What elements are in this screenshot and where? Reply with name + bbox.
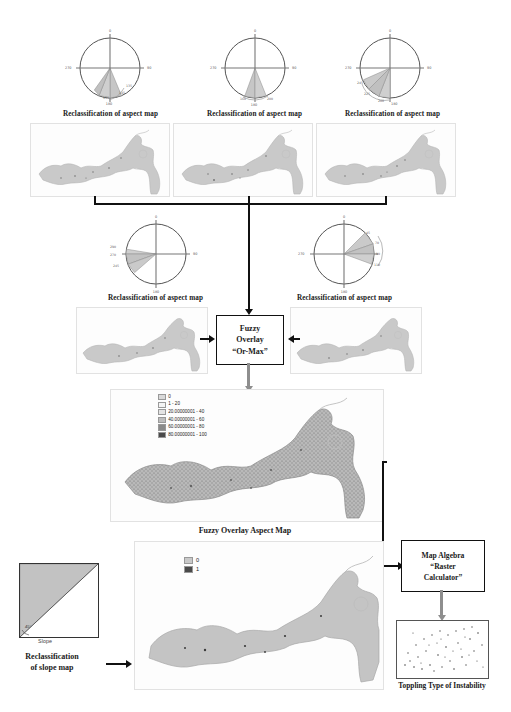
- legend-item: 20.00000001 - 40: [158, 409, 207, 415]
- legend-label: 1 - 20: [168, 402, 180, 407]
- caption-aspect-1: Reclassification of aspect map: [38, 110, 183, 119]
- compass-rose-4: 0 90 180 290 270 245: [108, 214, 204, 296]
- bracket-to-fuzzy: [248, 203, 250, 311]
- svg-text:180: 180: [251, 103, 257, 107]
- legend-label: 60.00000001 - 80: [168, 425, 204, 430]
- svg-text:70: 70: [375, 241, 379, 245]
- svg-text:270: 270: [110, 253, 116, 257]
- legend-swatch: [158, 417, 166, 423]
- bracket-horizontal: [94, 203, 387, 205]
- svg-text:90: 90: [147, 66, 151, 70]
- legend-label: 0: [168, 395, 171, 400]
- compass-rose-1: 0 90 180 270 135 145 155: [62, 28, 158, 108]
- algebra-line-2: “Raster: [430, 561, 455, 572]
- arrow-slope-to-map: [126, 660, 132, 668]
- svg-text:45: 45: [366, 231, 370, 235]
- aspect-map-3: [316, 123, 456, 197]
- fuzzy-map-legend: 0 1 - 20 20.00000001 - 40 40.00000001 - …: [158, 394, 207, 439]
- connector-algebra-to-output: [440, 590, 443, 618]
- legend-swatch: [158, 432, 166, 438]
- caption-slope-reclass-line1: Reclassification: [0, 652, 104, 662]
- legend-swatch: [184, 566, 193, 573]
- legend-label: 40.00000001 - 60: [168, 418, 204, 423]
- fuzzy-line-3: “Or-Max”: [232, 346, 268, 358]
- slope-map-legend: 0 1: [184, 557, 199, 575]
- fuzzy-overlay-box[interactable]: Fuzzy Overlay “Or-Max”: [216, 315, 284, 365]
- arrow-head-right-to-fuzzy: [288, 335, 294, 343]
- legend-swatch: [158, 424, 166, 430]
- aspect-map-1: [30, 123, 170, 197]
- legend-label: 0: [196, 557, 199, 563]
- svg-text:270: 270: [65, 66, 71, 70]
- map-algebra-box[interactable]: Map Algebra “Raster Calculator”: [401, 540, 485, 592]
- svg-text:270: 270: [345, 66, 351, 70]
- svg-text:200: 200: [267, 97, 273, 101]
- legend-label: 20.00000001 - 40: [168, 410, 204, 415]
- arrow-head-left-to-fuzzy: [209, 335, 215, 343]
- compass-rose-3: 0 90 180 270 245 225 200: [342, 28, 438, 114]
- caption-aspect-5: Reclassification of aspect map: [272, 294, 417, 303]
- compass-rose-2: 0 90 180 270 160 200: [207, 28, 303, 108]
- legend-item: 80.00000001 - 100: [158, 432, 207, 438]
- svg-text:135: 135: [126, 84, 132, 88]
- svg-text:90: 90: [292, 66, 296, 70]
- caption-aspect-2: Reclassification of aspect map: [182, 110, 327, 119]
- svg-text:270: 270: [210, 66, 216, 70]
- bracket-stub-right: [385, 196, 387, 204]
- svg-text:110: 110: [374, 263, 380, 267]
- svg-text:0: 0: [109, 29, 111, 33]
- svg-text:245: 245: [113, 264, 119, 268]
- legend-swatch: [184, 557, 193, 564]
- aspect-map-2: [173, 123, 313, 197]
- legend-item: 1 - 20: [158, 402, 207, 408]
- compass-rose-5: 0 180 270 45 70 90 110: [296, 214, 392, 296]
- toppling-output-map: [396, 620, 489, 679]
- svg-text:90: 90: [427, 66, 431, 70]
- svg-text:0: 0: [155, 215, 157, 219]
- legend-item: 40.00000001 - 60: [158, 417, 207, 423]
- legend-label: 80.00000001 - 100: [168, 433, 207, 438]
- slope-axis-label: Slope: [38, 638, 52, 644]
- svg-text:225: 225: [364, 92, 370, 96]
- fuzzy-line-2: Overlay: [236, 334, 264, 346]
- caption-aspect-3: Reclassification of aspect map: [320, 110, 465, 119]
- svg-text:0: 0: [343, 215, 345, 219]
- slope-reclassified-map: [134, 541, 384, 690]
- connector-fuzzymap-to-algebra: [382, 461, 387, 463]
- svg-text:200: 200: [378, 99, 384, 103]
- svg-text:270: 270: [298, 252, 304, 256]
- legend-item: 1: [184, 566, 199, 573]
- algebra-line-3: Calculator”: [424, 572, 462, 583]
- caption-slope-reclass-line2: of slope map: [0, 663, 104, 673]
- svg-text:90: 90: [193, 252, 197, 256]
- svg-text:290: 290: [110, 245, 116, 249]
- svg-text:0: 0: [389, 29, 391, 33]
- svg-text:0: 0: [254, 29, 256, 33]
- legend-label: 1: [196, 566, 199, 572]
- legend-swatch: [158, 409, 166, 415]
- aspect-map-4: [76, 307, 208, 374]
- algebra-line-1: Map Algebra: [422, 550, 465, 561]
- svg-text:160: 160: [240, 97, 246, 101]
- svg-text:180: 180: [106, 102, 112, 106]
- caption-toppling-output: Toppling Type of Instability: [382, 681, 502, 691]
- connector-slope-to-map: [106, 663, 128, 665]
- caption-fuzzy-overlay-aspect-map: Fuzzy Overlay Aspect Map: [150, 526, 340, 536]
- caption-aspect-4: Reclassification of aspect map: [83, 294, 228, 303]
- legend-item: 0: [158, 394, 207, 400]
- legend-item: 60.00000001 - 80: [158, 424, 207, 430]
- bracket-stub-left: [94, 196, 96, 204]
- svg-text:155: 155: [103, 96, 109, 100]
- slope-angle-label: 45°: [25, 624, 31, 629]
- fuzzy-overlay-aspect-map: [110, 389, 384, 522]
- svg-text:180: 180: [391, 102, 397, 106]
- legend-swatch: [158, 402, 166, 408]
- legend-swatch: [158, 394, 166, 400]
- aspect-map-5: [290, 307, 422, 374]
- svg-text:90: 90: [376, 252, 380, 256]
- svg-text:245: 245: [357, 81, 363, 85]
- legend-item: 0: [184, 557, 199, 564]
- fuzzy-line-1: Fuzzy: [240, 323, 260, 335]
- svg-text:145: 145: [119, 91, 125, 95]
